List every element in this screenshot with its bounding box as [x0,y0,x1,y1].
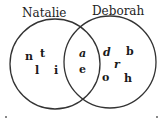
scan-speck [156,116,158,118]
set-label-natalie: Natalie [22,6,66,20]
element-natalie-only: n [25,50,33,63]
element-natalie-only: t [40,47,46,60]
element-deborah-only: o [102,71,109,84]
element-deborah-only: r [114,58,121,71]
element-natalie-only: l [35,64,39,77]
set-circle-deborah [64,16,156,108]
element-intersection: e [79,63,86,76]
element-natalie-only: i [54,64,58,77]
element-intersection: a [79,47,86,60]
set-label-deborah: Deborah [92,4,145,18]
element-deborah-only: h [124,72,132,85]
venn-diagram: Natalie Deborah n t l i a e d b r o h [0,0,163,120]
scan-speck [5,116,7,118]
element-deborah-only: b [126,45,134,58]
element-deborah-only: d [103,46,111,59]
